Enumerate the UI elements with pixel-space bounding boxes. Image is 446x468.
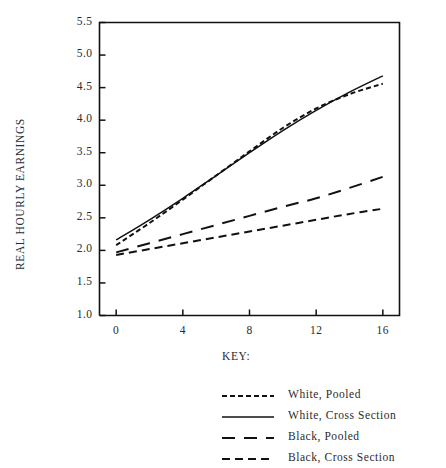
x-tick-label: 4 — [168, 324, 198, 336]
x-tick-label: 8 — [235, 324, 265, 336]
y-tick-label: 2.5 — [59, 210, 93, 222]
axis-ticks — [100, 23, 383, 316]
legend-item-label: White, Pooled — [288, 388, 361, 400]
series-line-3 — [116, 177, 383, 253]
y-tick-label: 3.5 — [59, 145, 93, 157]
x-tick-label: 0 — [101, 324, 131, 336]
y-tick-label: 4.5 — [59, 80, 93, 92]
legend-item: Black, Pooled — [222, 425, 432, 446]
plot-frame — [100, 23, 400, 316]
legend-line-swatch — [222, 430, 274, 442]
y-tick-label: 3.0 — [59, 177, 93, 189]
legend-item-label: Black, Cross Section — [288, 451, 395, 463]
y-tick-label: 1.5 — [59, 275, 93, 287]
legend-line-swatch — [222, 451, 274, 463]
legend-item-label: White, Cross Section — [288, 409, 396, 421]
y-tick-label: 5.5 — [59, 15, 93, 27]
series-line-1 — [116, 84, 383, 245]
y-tick-label: 2.0 — [59, 242, 93, 254]
legend-item-label: Black, Pooled — [288, 430, 360, 442]
legend-item: White, Pooled — [222, 383, 432, 404]
y-tick-label: 4.0 — [59, 112, 93, 124]
y-tick-label: 5.0 — [59, 47, 93, 59]
legend-item: White, Cross Section — [222, 404, 432, 425]
legend-title: KEY: — [222, 350, 250, 362]
y-tick-label: 1.0 — [59, 308, 93, 320]
legend: White, PooledWhite, Cross SectionBlack, … — [222, 383, 432, 467]
x-tick-label: 12 — [301, 324, 331, 336]
legend-line-swatch — [222, 388, 274, 400]
chart-series-group — [116, 76, 383, 255]
legend-line-swatch — [222, 409, 274, 421]
x-tick-label: 16 — [368, 324, 398, 336]
legend-item: Black, Cross Section — [222, 446, 432, 467]
